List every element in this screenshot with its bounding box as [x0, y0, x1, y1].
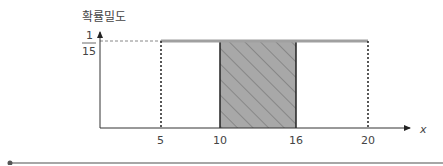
- tick-label-5: 5: [157, 134, 164, 147]
- tick-label-20: 20: [361, 134, 375, 147]
- tick-label-16: 16: [289, 134, 303, 147]
- shaded-probability-region: [220, 41, 296, 128]
- x-axis-label: x: [419, 123, 427, 136]
- fraction-denominator: 15: [82, 45, 96, 58]
- tick-label-10: 10: [213, 134, 227, 147]
- fraction-numerator: 1: [86, 29, 93, 42]
- y-axis-label: 확률밀도: [82, 10, 126, 24]
- divider-dot: [8, 161, 13, 166]
- uniform-density-chart: 확률밀도 x 1 15 5 10 16 20: [0, 0, 443, 165]
